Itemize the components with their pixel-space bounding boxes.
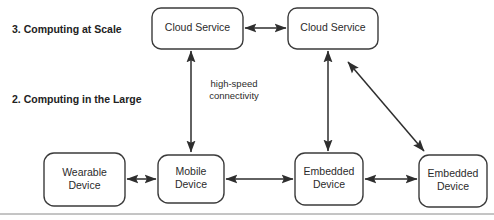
edge-label-high-speed-connectivity: high-speedconnectivity	[209, 78, 259, 101]
node-label: Device	[313, 178, 345, 190]
node-label: Embedded	[428, 167, 479, 179]
nodes-layer: Cloud ServiceCloud ServiceWearableDevice…	[44, 8, 487, 207]
computing-tiers-diagram: Cloud ServiceCloud ServiceWearableDevice…	[0, 0, 494, 220]
node-label: Device	[68, 179, 100, 191]
node-label: Embedded	[304, 165, 355, 177]
tier-label-tier-3: 3. Computing at Scale	[12, 23, 122, 35]
node-embedded-device-1: EmbeddedDevice	[295, 153, 363, 205]
node-embedded-device-2: EmbeddedDevice	[419, 155, 487, 207]
node-label: Device	[437, 180, 469, 192]
node-label: Device	[175, 178, 207, 190]
node-cloud-service-right: Cloud Service	[288, 8, 378, 49]
tier-label-tier-2: 2. Computing in the Large	[12, 93, 142, 105]
node-label: Cloud Service	[165, 21, 231, 33]
node-wearable-device: WearableDevice	[44, 153, 125, 206]
node-label: Wearable	[62, 166, 107, 178]
connector-arrow	[348, 62, 424, 151]
node-cloud-service-left: Cloud Service	[152, 8, 243, 49]
edge-label-line: high-speed	[210, 78, 257, 89]
node-mobile-device: MobileDevice	[158, 155, 224, 203]
node-label: Mobile	[176, 165, 207, 177]
edge-label-line: connectivity	[209, 90, 259, 101]
node-label: Cloud Service	[300, 21, 366, 33]
diagram-canvas: Cloud ServiceCloud ServiceWearableDevice…	[0, 0, 494, 220]
